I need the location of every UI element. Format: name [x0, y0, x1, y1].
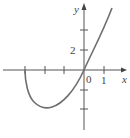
x-axis-label: x [121, 73, 127, 85]
x-tick-label-1: 1 [101, 74, 107, 86]
y-axis-arrow-icon [82, 3, 87, 10]
origin-label: 0 [86, 73, 92, 85]
function-curve [25, 8, 112, 108]
function-graph: y 2 0 1 x [0, 0, 130, 138]
x-axis-arrow-icon [121, 68, 127, 73]
y-tick-label-2: 2 [70, 44, 76, 56]
y-axis-label: y [73, 3, 79, 15]
